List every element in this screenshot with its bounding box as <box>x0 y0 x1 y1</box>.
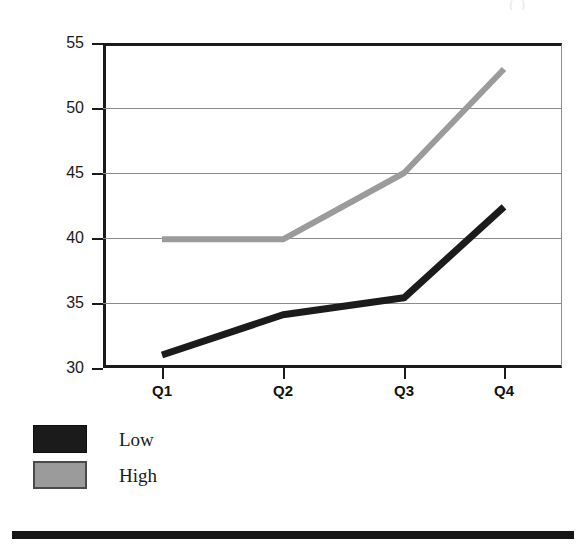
legend-item-low[interactable]: Low <box>33 421 263 457</box>
series-line-low <box>162 207 504 355</box>
chart-legend: Low High <box>33 421 263 493</box>
legend-item-high[interactable]: High <box>33 457 263 493</box>
bottom-horizontal-rule <box>12 531 574 539</box>
black-swatch-icon <box>33 425 87 453</box>
legend-label-high: High <box>119 466 157 485</box>
series-line-high <box>162 69 504 239</box>
gray-swatch-icon <box>33 461 87 489</box>
legend-label-low: Low <box>119 430 154 449</box>
